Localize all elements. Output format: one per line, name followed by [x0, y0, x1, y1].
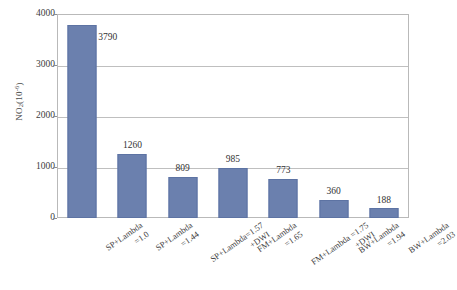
bar-slot: 3790 — [57, 14, 107, 218]
y-tick-label: 3000 — [15, 60, 55, 70]
x-axis-label: SP+Lambda=1.0 — [104, 220, 151, 262]
y-axis-title-paren-open: (10 — [14, 91, 24, 104]
bar-value-label: 360 — [326, 187, 340, 197]
y-tick-mark — [53, 116, 57, 117]
bar-slot: 360 — [308, 14, 358, 218]
y-axis-title-paren-close: ) — [14, 82, 24, 85]
y-tick-label: 1000 — [15, 162, 55, 172]
bar-value-label: 809 — [176, 164, 190, 174]
bar[interactable] — [68, 25, 97, 218]
y-tick-mark — [53, 14, 57, 15]
bars-layer: 37901260809985773360188 — [57, 14, 409, 218]
y-tick-label: 0 — [15, 213, 55, 223]
y-tick-mark — [53, 218, 57, 219]
bar-slot: 985 — [208, 14, 258, 218]
bar[interactable] — [319, 200, 348, 218]
bar-value-label: 773 — [276, 166, 290, 176]
y-tick-mark — [53, 167, 57, 168]
bar-slot: 1260 — [107, 14, 157, 218]
bar[interactable] — [218, 168, 247, 218]
bar-slot: 809 — [158, 14, 208, 218]
y-axis-title-subscript: 2 — [17, 104, 24, 107]
bar[interactable] — [369, 208, 398, 218]
bar-slot: 188 — [359, 14, 409, 218]
bar[interactable] — [168, 177, 197, 218]
x-axis-labels: SP+Lambda=1.0SP+Lambda=1.44SP+Lambda=1.5… — [57, 220, 409, 290]
x-axis-label: SP+Lambda=1.44 — [154, 220, 201, 262]
bar-slot: 773 — [258, 14, 308, 218]
bar-value-label: 188 — [377, 196, 391, 206]
y-tick-label: 4000 — [15, 9, 55, 19]
y-tick-mark — [53, 65, 57, 66]
bar-value-label: 1260 — [123, 141, 142, 151]
bar[interactable] — [118, 154, 147, 218]
x-axis-label: BW+Lambda=2.03 — [406, 220, 456, 264]
y-axis-title-superscript: -6 — [13, 85, 20, 91]
bar-value-label: 985 — [226, 155, 240, 165]
y-tick-label: 2000 — [15, 111, 55, 121]
bar[interactable] — [269, 179, 298, 218]
